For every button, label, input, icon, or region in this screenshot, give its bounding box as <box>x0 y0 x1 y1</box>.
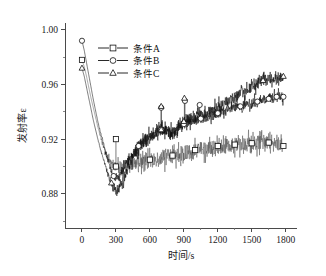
marker-circle <box>111 173 116 178</box>
marker-circle <box>255 99 260 104</box>
marker-square <box>249 141 254 146</box>
x-tick-label: 600 <box>143 235 158 245</box>
axes: 0.880.920.961.000300600900120015001800 <box>41 23 297 245</box>
y-axis-title: 发射率ε <box>16 108 28 142</box>
x-tick-label: 1500 <box>242 235 261 245</box>
marker-square <box>147 157 152 162</box>
marker-circle <box>274 94 279 99</box>
marker-circle <box>197 102 202 107</box>
marker-circle <box>198 116 203 121</box>
x-tick-label: 1800 <box>276 235 295 245</box>
marker-circle <box>79 38 84 43</box>
marker-square <box>281 143 286 148</box>
legend-label-3: 条件C <box>133 68 159 79</box>
marker-square <box>113 137 118 142</box>
marker-square <box>113 164 118 169</box>
marker-circle <box>281 94 286 99</box>
legend-label-1: 条件A <box>133 43 160 54</box>
marker-circle <box>266 96 271 101</box>
x-tick-label: 900 <box>177 235 192 245</box>
x-tick-label: 300 <box>109 235 124 245</box>
x-tick-label: 0 <box>80 235 85 245</box>
x-axis-title: 时间/s <box>168 249 195 261</box>
chart-figure: 0.880.920.961.000300600900120015001800 条… <box>0 0 326 276</box>
marker-square <box>110 45 116 51</box>
marker-circle <box>136 143 141 148</box>
emissivity-vs-time-chart: 0.880.920.961.000300600900120015001800 条… <box>0 0 326 276</box>
marker-triangle <box>281 73 287 78</box>
legend-label-2: 条件B <box>133 55 159 66</box>
marker-square <box>232 142 237 147</box>
y-tick-label: 0.88 <box>41 189 58 199</box>
marker-square <box>266 140 271 145</box>
marker-square <box>79 57 84 62</box>
marker-circle <box>110 58 116 64</box>
x-tick-label: 1200 <box>208 235 227 245</box>
y-tick-label: 0.96 <box>41 80 58 90</box>
marker-square <box>193 148 198 153</box>
marker-triangle <box>110 70 116 76</box>
marker-circle <box>215 111 220 116</box>
y-tick-label: 1.00 <box>41 25 58 35</box>
marker-square <box>215 143 220 148</box>
marker-square <box>170 153 175 158</box>
data-series <box>82 41 283 196</box>
legend: 条件A条件B条件C <box>98 43 160 79</box>
y-tick-label: 0.92 <box>41 135 58 145</box>
marker-triangle <box>182 95 188 100</box>
marker-circle <box>238 104 243 109</box>
